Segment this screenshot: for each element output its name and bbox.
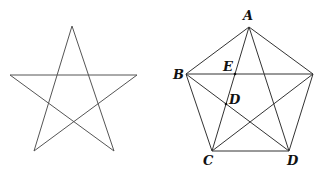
label-D-inner: D: [228, 92, 241, 107]
label-D: D: [286, 153, 299, 168]
label-E: E: [222, 59, 234, 74]
pentagram-star: [10, 26, 137, 151]
diagram-canvas: A B E D C D: [0, 0, 325, 170]
label-C: C: [203, 153, 214, 168]
label-A: A: [241, 8, 253, 23]
pentagon-with-diagonals: [186, 27, 313, 151]
label-B: B: [172, 67, 184, 82]
